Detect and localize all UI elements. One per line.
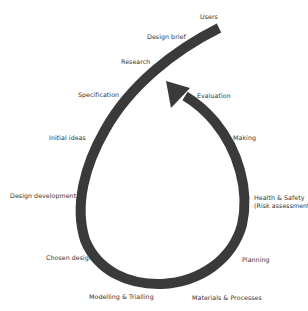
stage-label: Modelling & Trialling (89, 293, 154, 301)
stage-label: Materials & Processes (192, 294, 262, 302)
stage-label: Initial ideas (49, 134, 86, 142)
loop-stroke (81, 28, 245, 284)
process-loop-arrow (0, 0, 308, 311)
stage-label: (Risk assessment) (254, 202, 308, 210)
stage-label: Design brief (147, 33, 186, 41)
stage-label: Design development (10, 192, 76, 200)
stage-label: Users (200, 13, 218, 21)
stage-label: Research (121, 58, 150, 66)
stage-label: Evaluation (197, 92, 231, 100)
stage-label: Health & Safety (254, 194, 304, 202)
design-process-diagram: UsersDesign briefResearchSpecificationEv… (0, 0, 308, 311)
stage-label: Chosen design (46, 254, 93, 262)
stage-label: Making (233, 134, 256, 142)
stage-label: Planning (242, 256, 270, 264)
stage-label: Specification (78, 91, 119, 99)
